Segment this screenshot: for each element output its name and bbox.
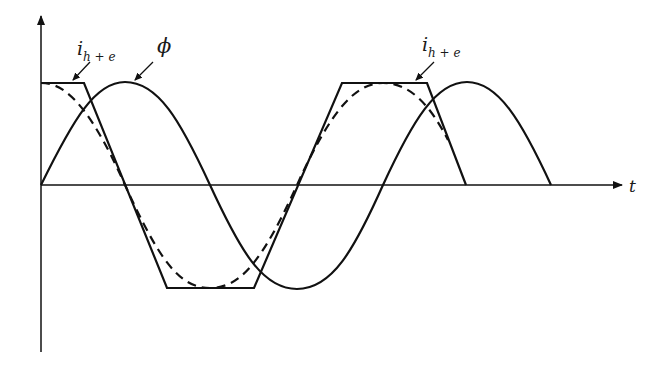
flux-label-arrow xyxy=(135,62,153,80)
current-label-left: ih + e xyxy=(77,37,116,64)
waveform-diagram: t ih + e ϕ ih + e xyxy=(0,0,665,367)
flux-label: ϕ xyxy=(157,34,171,58)
x-axis-label: t xyxy=(629,176,636,196)
current-label-left-arrow xyxy=(73,62,90,80)
current-label-right-arrow xyxy=(416,62,434,80)
current-label-right: ih + e xyxy=(422,33,461,60)
